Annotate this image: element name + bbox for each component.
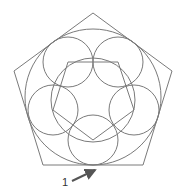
callout-label: 1 [62, 176, 68, 188]
small-circles-group [28, 37, 159, 165]
middle-circle [51, 58, 135, 142]
inner-pentagon [53, 62, 134, 140]
pentagon-diagram: 1 [0, 0, 186, 195]
callout-arrow [72, 170, 95, 181]
inscribed-circle [25, 29, 161, 165]
